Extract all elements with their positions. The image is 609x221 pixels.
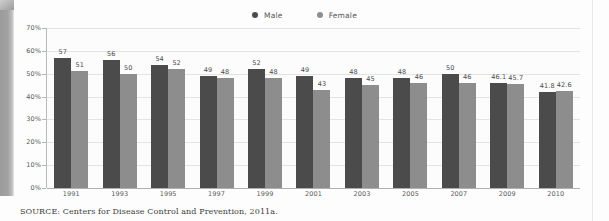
bar-female-1993: 50 xyxy=(120,74,137,188)
bar-male-1999: 52 xyxy=(248,69,265,188)
bar-female-1997: 48 xyxy=(217,78,234,188)
y-axis: 0%10%20%30%40%50%60%70% xyxy=(20,28,46,188)
bar-value-label: 46 xyxy=(415,73,423,81)
x-tick-label-1999: 1999 xyxy=(241,190,289,202)
bar-male-1997: 49 xyxy=(200,76,217,188)
bar-female-1999: 48 xyxy=(265,78,282,188)
bar-chart-figure: MaleFemale 0%10%20%30%40%50%60%70% 57515… xyxy=(0,0,609,221)
bar-group-1991: 5751 xyxy=(47,28,95,188)
bar-male-2005: 48 xyxy=(393,78,410,188)
chart-legend: MaleFemale xyxy=(0,8,609,22)
legend-swatch-icon xyxy=(317,12,323,18)
bar-group-2003: 4845 xyxy=(338,28,386,188)
bar-value-label: 42.6 xyxy=(557,81,572,89)
bar-male-1995: 54 xyxy=(151,65,168,188)
y-tick-label: 70% xyxy=(26,24,41,32)
plot-area: 57515650545249485248494348454846504646.1… xyxy=(47,28,580,188)
bar-group-2007: 5046 xyxy=(435,28,483,188)
x-tick-label-2009: 2009 xyxy=(483,190,531,202)
bar-group-1995: 5452 xyxy=(144,28,192,188)
bar-value-label: 57 xyxy=(58,48,66,56)
bar-male-2009: 46.1 xyxy=(490,83,507,188)
bar-value-label: 52 xyxy=(172,59,180,67)
bar-group-2009: 46.145.7 xyxy=(483,28,531,188)
x-tick-label-2005: 2005 xyxy=(386,190,434,202)
bar-male-1993: 56 xyxy=(103,60,120,188)
bar-value-label: 46 xyxy=(463,73,471,81)
legend-label: Male xyxy=(264,11,283,20)
x-tick-label-2010: 2010 xyxy=(532,190,580,202)
bar-value-label: 46.1 xyxy=(491,73,506,81)
bar-value-label: 48 xyxy=(349,68,357,76)
bar-male-2010: 41.8 xyxy=(539,92,556,188)
y-tick-label: 60% xyxy=(26,47,41,55)
bar-male-2007: 50 xyxy=(442,74,459,188)
legend-label: Female xyxy=(329,11,357,20)
x-tick-label-1993: 1993 xyxy=(95,190,143,202)
bar-value-label: 50 xyxy=(124,64,132,72)
y-tick-label: 30% xyxy=(26,115,41,123)
bar-female-2003: 45 xyxy=(362,85,379,188)
legend-entry-female: Female xyxy=(317,11,357,20)
bar-female-2009: 45.7 xyxy=(507,84,524,188)
bar-value-label: 48 xyxy=(221,68,229,76)
bar-value-label: 52 xyxy=(252,59,260,67)
y-tick-mark xyxy=(42,188,46,189)
x-tick-label-2007: 2007 xyxy=(435,190,483,202)
bar-female-2010: 42.6 xyxy=(556,91,573,188)
bar-value-label: 56 xyxy=(107,50,115,58)
bar-group-1999: 5248 xyxy=(241,28,289,188)
legend-swatch-icon xyxy=(252,12,258,18)
x-tick-label-1991: 1991 xyxy=(47,190,95,202)
x-tick-label-1995: 1995 xyxy=(144,190,192,202)
x-tick-label-1997: 1997 xyxy=(192,190,240,202)
bar-value-label: 49 xyxy=(204,66,212,74)
y-tick-label: 0% xyxy=(30,184,41,192)
bar-group-1993: 5650 xyxy=(95,28,143,188)
bar-value-label: 43 xyxy=(318,80,326,88)
bar-value-label: 49 xyxy=(301,66,309,74)
bar-female-2007: 46 xyxy=(459,83,476,188)
bar-group-2001: 4943 xyxy=(289,28,337,188)
bar-value-label: 50 xyxy=(446,64,454,72)
x-tick-label-2003: 2003 xyxy=(338,190,386,202)
bar-value-label: 41.8 xyxy=(540,82,555,90)
y-tick-label: 50% xyxy=(26,70,41,78)
bar-value-label: 51 xyxy=(75,61,83,69)
axis-baseline xyxy=(47,188,580,189)
bar-female-2001: 43 xyxy=(313,90,330,188)
chart-plot-wrapper: 0%10%20%30%40%50%60%70% 5751565054524948… xyxy=(20,28,580,188)
bar-group-2005: 4846 xyxy=(386,28,434,188)
legend-entry-male: Male xyxy=(252,11,283,20)
x-tick-label-2001: 2001 xyxy=(289,190,337,202)
bar-group-1997: 4948 xyxy=(192,28,240,188)
bar-value-label: 45 xyxy=(366,75,374,83)
bar-value-label: 45.7 xyxy=(508,74,523,82)
bar-value-label: 48 xyxy=(398,68,406,76)
y-tick-label: 10% xyxy=(26,161,41,169)
bar-male-2003: 48 xyxy=(345,78,362,188)
bar-female-2005: 46 xyxy=(410,83,427,188)
source-caption: SOURCE: Centers for Disease Control and … xyxy=(20,207,278,216)
y-tick-label: 40% xyxy=(26,93,41,101)
bar-group-2010: 41.842.6 xyxy=(532,28,580,188)
bar-male-1991: 57 xyxy=(54,58,71,188)
bar-value-label: 54 xyxy=(155,55,163,63)
bar-series-container: 57515650545249485248494348454846504646.1… xyxy=(47,28,580,188)
bar-female-1991: 51 xyxy=(71,71,88,188)
x-axis: 1991199319951997199920012003200520072009… xyxy=(47,190,580,202)
bar-female-1995: 52 xyxy=(168,69,185,188)
bar-value-label: 48 xyxy=(269,68,277,76)
y-tick-label: 20% xyxy=(26,138,41,146)
bar-male-2001: 49 xyxy=(296,76,313,188)
